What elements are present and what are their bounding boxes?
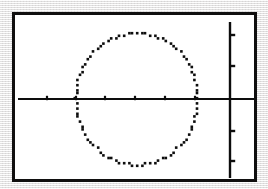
graph-svg	[15, 15, 254, 179]
curve-point	[115, 37, 118, 40]
curve-point	[193, 79, 196, 82]
curve-point	[193, 115, 196, 118]
curve-point	[154, 35, 157, 38]
curve-point	[185, 58, 188, 61]
curve-point	[79, 74, 82, 77]
curve-point	[149, 35, 152, 38]
curve-point	[196, 97, 199, 100]
curve-point	[128, 162, 131, 165]
curve-point	[175, 48, 178, 51]
curve-point	[92, 144, 95, 147]
curve-point	[162, 157, 165, 160]
curve-point	[76, 92, 79, 95]
curve-point	[123, 35, 126, 38]
curve-point	[115, 159, 118, 162]
curve-point	[76, 107, 79, 110]
curve-point	[188, 133, 191, 136]
curve-point	[81, 128, 84, 131]
curve-point	[102, 154, 105, 157]
curve-point	[165, 40, 168, 43]
curve-point	[107, 40, 110, 43]
curve-point	[131, 32, 134, 35]
curve-point	[162, 37, 165, 40]
curve-point	[76, 102, 79, 105]
curve-point	[191, 71, 194, 74]
curve-point	[110, 157, 113, 160]
curve-point	[76, 79, 79, 82]
curve-point	[188, 63, 191, 66]
curve-point	[128, 32, 131, 35]
curve-point	[180, 144, 183, 147]
curve-point	[81, 66, 84, 69]
curve-point	[170, 154, 173, 157]
curve-point	[87, 139, 90, 142]
curve-point	[118, 162, 121, 165]
curve-point	[76, 89, 79, 92]
curve-point	[118, 35, 121, 38]
curve-point	[196, 102, 199, 105]
curve-point	[141, 32, 144, 35]
curve-point	[97, 48, 100, 51]
calculator-screen-frame	[12, 12, 257, 182]
curve-point	[193, 74, 196, 77]
curve-point	[92, 50, 95, 53]
curve-point	[141, 165, 144, 168]
curve-point	[180, 50, 183, 53]
curve-point	[100, 45, 103, 48]
curve-point	[84, 133, 87, 136]
curve-point	[149, 162, 152, 165]
curve-point	[89, 141, 92, 144]
curve-point	[154, 162, 157, 165]
curve-point	[76, 115, 79, 118]
curve-point	[87, 58, 90, 61]
curve-point	[81, 126, 84, 129]
curve-point	[191, 126, 194, 129]
graph-plot-area[interactable]	[15, 15, 254, 179]
curve-point	[172, 152, 175, 155]
curve-point	[89, 55, 92, 58]
curve-point	[110, 37, 113, 40]
curve-point	[175, 146, 178, 149]
curve-point	[193, 120, 196, 123]
curve-point	[131, 165, 134, 168]
curve-point	[157, 159, 160, 162]
curve-point	[172, 45, 175, 48]
curve-point	[196, 113, 199, 116]
curve-point	[196, 107, 199, 110]
curve-point	[123, 162, 126, 165]
curve-point	[84, 63, 87, 66]
curve-point	[97, 146, 100, 149]
curve-point	[102, 42, 105, 45]
curve-point	[196, 92, 199, 95]
curve-point	[79, 120, 82, 123]
curve-point	[165, 157, 168, 160]
curve-point	[196, 89, 199, 92]
curve-point	[196, 84, 199, 87]
screenshot-root	[0, 0, 268, 189]
curve-point	[157, 37, 160, 40]
curve-point	[144, 162, 147, 165]
curve-point	[183, 141, 186, 144]
curve-point	[76, 84, 79, 87]
curve-point	[136, 32, 139, 35]
curve-point	[191, 66, 194, 69]
curve-point	[185, 139, 188, 142]
curve-point	[107, 157, 110, 160]
curve-point	[144, 32, 147, 35]
curve-point	[191, 128, 194, 131]
curve-point	[170, 42, 173, 45]
curve-point	[136, 165, 139, 168]
curve-point	[183, 55, 186, 58]
curve-point	[74, 97, 77, 100]
curve-point	[100, 152, 103, 155]
curve-point	[81, 71, 84, 74]
curve-point	[76, 113, 79, 116]
